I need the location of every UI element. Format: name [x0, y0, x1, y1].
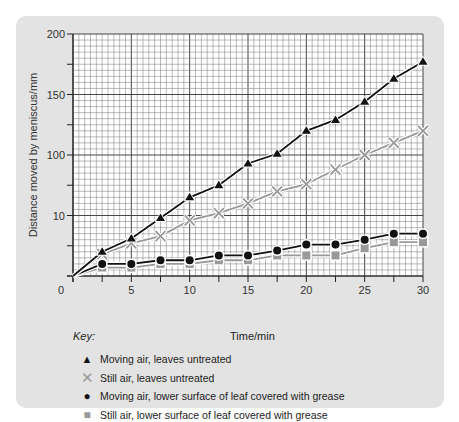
x-axis-label: Time/min — [230, 330, 275, 342]
square-marker-icon: ■ — [74, 408, 100, 422]
x-tick-label: 25 — [359, 284, 371, 296]
legend-item-moving-grease: ● Moving air, lower surface of leaf cove… — [74, 387, 345, 406]
y-tick-label: 150 — [47, 89, 65, 101]
y-tick-label: 200 — [47, 28, 65, 40]
cross-marker-icon: ✕ — [74, 369, 100, 387]
y-tick-label: 10 — [53, 210, 65, 222]
x-tick-label: 0 — [58, 284, 64, 296]
y-tick-label: 100 — [47, 149, 65, 161]
x-tick-label: 10 — [184, 284, 196, 296]
x-tick-label: 30 — [417, 284, 429, 296]
legend-item-moving-untreated: ▲ Moving air, leaves untreated — [74, 350, 345, 369]
x-tick-label: 15 — [242, 284, 254, 296]
legend-item-still-grease: ■ Still air, lower surface of leaf cover… — [74, 406, 345, 422]
x-tick-label: 20 — [300, 284, 312, 296]
legend-label: Moving air, leaves untreated — [100, 353, 231, 365]
circle-marker-icon: ● — [74, 389, 100, 403]
legend-label: Moving air, lower surface of leaf covere… — [100, 390, 345, 402]
key-title: Key: — [73, 330, 95, 342]
y-axis-label: Distance moved by meniscus/mm — [27, 73, 39, 237]
triangle-marker-icon: ▲ — [74, 353, 100, 365]
legend-label: Still air, leaves untreated — [100, 372, 214, 384]
legend: ▲ Moving air, leaves untreated ✕ Still a… — [74, 350, 345, 422]
x-tick-label: 5 — [128, 284, 134, 296]
legend-item-still-untreated: ✕ Still air, leaves untreated — [74, 369, 345, 388]
legend-label: Still air, lower surface of leaf covered… — [100, 409, 328, 421]
